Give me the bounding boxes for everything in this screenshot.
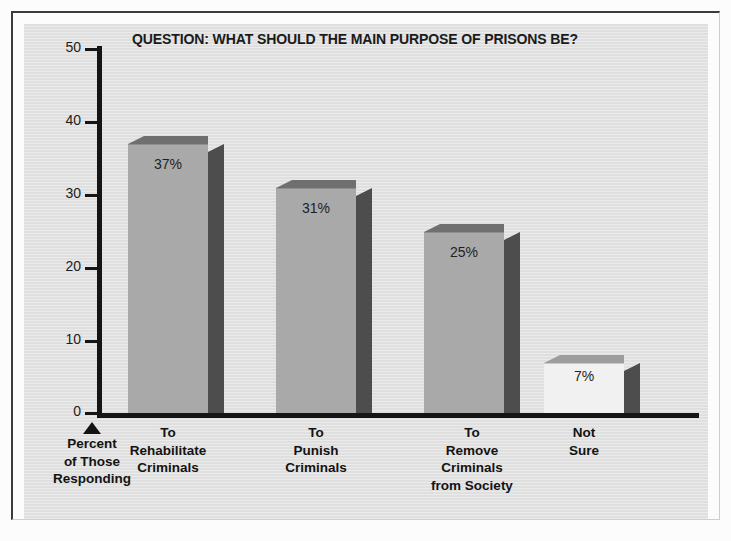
y-axis-line [97, 46, 102, 417]
category-label-remove: To Remove Criminals from Society [410, 424, 534, 494]
category-label-rehabilitate: To Rehabilitate Criminals [120, 424, 216, 477]
y-tick-label-40: 40 [41, 112, 81, 128]
cat4-line1: Not [538, 424, 630, 442]
cat2-line2: Punish [268, 442, 364, 460]
bar-side-face-3 [504, 232, 520, 414]
y-tick-label-0: 0 [41, 403, 81, 419]
up-triangle-icon [83, 422, 101, 434]
x-axis-baseline [97, 413, 699, 418]
cat4-line2: Sure [538, 442, 630, 460]
bar-value-label-2: 31% [276, 200, 356, 216]
bar-side-face-1 [208, 144, 224, 414]
category-label-punish: To Punish Criminals [268, 424, 364, 477]
y-tick-label-10: 10 [41, 331, 81, 347]
bar-front-face-2 [276, 188, 356, 414]
bar-side-face-4 [624, 363, 640, 414]
bar-top-face-2 [276, 180, 356, 188]
chart-panel: QUESTION: WHAT SHOULD THE MAIN PURPOSE O… [24, 24, 708, 519]
chart-title: QUESTION: WHAT SHOULD THE MAIN PURPOSE O… [132, 31, 578, 47]
bar-value-label-4: 7% [544, 368, 624, 384]
cat1-line3: Criminals [120, 459, 216, 477]
bar-side-face-2 [356, 188, 372, 414]
cat2-line1: To [268, 424, 364, 442]
cat2-line3: Criminals [268, 459, 364, 477]
cat3-line1: To [410, 424, 534, 442]
bar-top-face-1 [128, 136, 208, 144]
cat3-line2: Remove [410, 442, 534, 460]
bar-rehabilitate[interactable]: 37% [128, 136, 224, 414]
y-tick-label-50: 50 [41, 39, 81, 55]
cat1-line1: To [120, 424, 216, 442]
cat3-line3: Criminals [410, 459, 534, 477]
bar-remove-from-society[interactable]: 25% [424, 224, 520, 414]
bar-value-label-1: 37% [128, 156, 208, 172]
y-tick-label-30: 30 [41, 185, 81, 201]
cat1-line2: Rehabilitate [120, 442, 216, 460]
scanned-page: QUESTION: WHAT SHOULD THE MAIN PURPOSE O… [0, 0, 731, 541]
bar-punish[interactable]: 31% [276, 180, 372, 414]
category-label-not-sure: Not Sure [538, 424, 630, 459]
cat3-line4: from Society [410, 477, 534, 495]
bar-value-label-3: 25% [424, 244, 504, 260]
bar-front-face-1 [128, 144, 208, 414]
bar-not-sure[interactable]: 7% [544, 355, 640, 414]
y-tick-label-20: 20 [41, 258, 81, 274]
bar-top-face-4 [544, 355, 624, 363]
bar-top-face-3 [424, 224, 504, 232]
